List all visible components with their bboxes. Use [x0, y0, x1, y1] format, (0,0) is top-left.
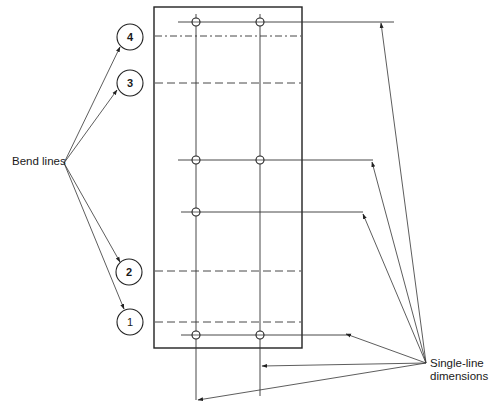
sheet-metal-diagram: 4 3 2 1 Bend lines Single-line dimension… [0, 0, 491, 412]
single-line-dimensions-label-line2: dimensions [430, 370, 488, 383]
callout-number-3: 3 [127, 77, 133, 89]
bend-lines-label: Bend lines [12, 155, 66, 168]
bend-callouts [116, 24, 143, 335]
callout-number-4: 4 [127, 31, 134, 43]
dimension-leaders [198, 23, 426, 400]
bend-leaders [64, 47, 124, 309]
plate-outline [154, 7, 302, 348]
callout-number-1: 1 [127, 316, 133, 328]
diagram-canvas: 4 3 2 1 [0, 0, 491, 412]
single-line-dimensions-label-line1: Single-line [430, 357, 484, 370]
holes [192, 18, 264, 339]
callout-number-2: 2 [126, 266, 132, 278]
